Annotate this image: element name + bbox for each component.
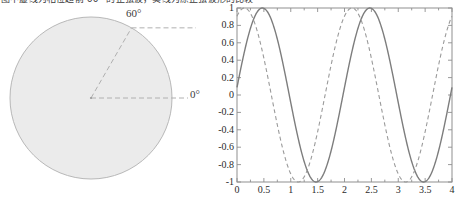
x-tick-label: 1 [279, 184, 303, 195]
circle-diagram-panel: 60° 0° [0, 6, 228, 200]
plot-svg [228, 0, 458, 200]
x-tick-label: 0 [225, 184, 249, 195]
y-tick-label: 0.4 [212, 54, 234, 65]
axes-frame [237, 8, 452, 182]
x-tick-label: 3.5 [413, 184, 437, 195]
x-tick-label: 3 [386, 184, 410, 195]
angle-label-60: 60° [126, 7, 141, 19]
plot-panel: 10.80.60.40.20-0.2-0.4-0.6-0.8-1 00.511.… [228, 0, 458, 200]
y-tick-label: 0 [212, 89, 234, 100]
y-tick-label: -0.6 [212, 141, 234, 152]
y-tick-label: 0.8 [212, 19, 234, 30]
angle-label-0: 0° [190, 88, 200, 100]
y-tick-label: 1 [212, 2, 234, 13]
x-tick-label: 2.5 [359, 184, 383, 195]
x-tick-label: 1.5 [306, 184, 330, 195]
y-tick-label: -0.4 [212, 124, 234, 135]
y-tick-label: -0.2 [212, 106, 234, 117]
y-tick-label: -0.8 [212, 159, 234, 170]
x-tick-label: 0.5 [252, 184, 276, 195]
circle-diagram-svg [0, 6, 228, 200]
x-tick-label: 4 [440, 184, 458, 195]
y-tick-label: 0.6 [212, 37, 234, 48]
circle-center-dot [90, 97, 92, 99]
y-tick-label: 0.2 [212, 72, 234, 83]
x-tick-label: 2 [333, 184, 357, 195]
figure-root: 图中虚线为相位超前 60° 的正弦波，实线为原正弦波形的比较 60° 0° 10… [0, 0, 458, 200]
